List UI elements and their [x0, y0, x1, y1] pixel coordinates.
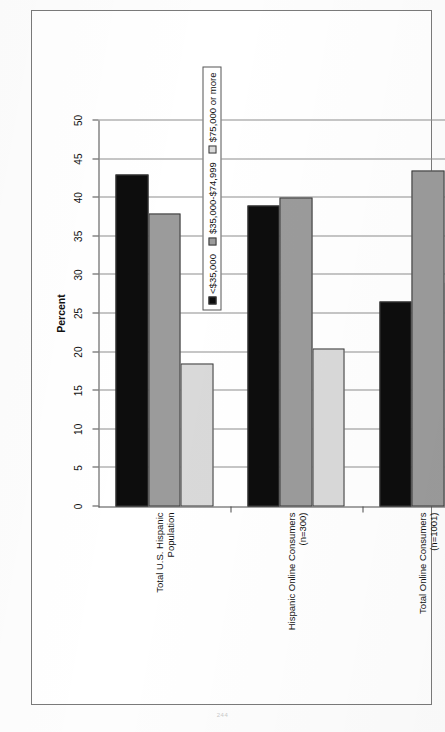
bar [115, 174, 147, 506]
legend: <$35,000$35,000-$74,999$75,000 or more [202, 66, 221, 310]
x-tick [92, 389, 98, 390]
x-tick [92, 158, 98, 159]
x-tick [92, 119, 98, 120]
bar-chart: Total U.S. HispanicPopulationHispanic On… [52, 72, 445, 627]
scanned-page: Figure 42 - Online Income Demographics f… [0, 0, 445, 732]
category-label-line: (n=1001) [427, 512, 438, 662]
x-tick [92, 428, 98, 429]
bar [148, 213, 180, 506]
legend-swatch [208, 296, 216, 304]
bar [312, 348, 344, 506]
x-tick [92, 196, 98, 197]
plot-area: Total U.S. HispanicPopulationHispanic On… [98, 120, 445, 507]
x-tick-label: 10 [72, 423, 83, 434]
x-tick [92, 351, 98, 352]
bar [180, 363, 212, 506]
bar [279, 197, 311, 506]
x-tick [92, 273, 98, 274]
category-label-line: Total Online Consumers [416, 512, 427, 662]
legend-item: <$35,000 [206, 254, 217, 305]
category-label-line: Hispanic Online Consumers [285, 512, 296, 662]
category-label-line: Population [164, 512, 175, 662]
legend-label: <$35,000 [206, 254, 217, 294]
x-tick [92, 466, 98, 467]
legend-label: $35,000-$74,999 [206, 162, 217, 234]
x-tick-label: 40 [72, 192, 83, 203]
x-tick-label: 35 [72, 230, 83, 241]
x-tick-label: 20 [72, 346, 83, 357]
x-tick-label: 15 [72, 385, 83, 396]
x-tick-label: 30 [72, 269, 83, 280]
x-tick-label: 25 [72, 307, 83, 318]
x-tick-label: 45 [72, 153, 83, 164]
x-tick-label: 5 [72, 465, 83, 471]
category-label-line: (n=300) [296, 512, 307, 662]
bar [247, 205, 279, 506]
x-tick-label: 0 [72, 503, 83, 509]
category-axis-tick [362, 506, 363, 512]
category-label-line: Total U.S. Hispanic [153, 512, 164, 662]
bars-layer: Total U.S. HispanicPopulationHispanic On… [98, 120, 445, 506]
rotated-artwork-layer: Figure 42 - Online Income Demographics f… [0, 0, 445, 732]
x-tick [92, 505, 98, 506]
landscape-canvas: Figure 42 - Online Income Demographics f… [0, 0, 445, 732]
page-number: 244 [0, 712, 445, 718]
legend-swatch [208, 145, 216, 153]
bar [379, 301, 411, 506]
category-label: Total Online Consumers(n=1001) [362, 512, 445, 662]
legend-item: $35,000-$74,999 [206, 162, 217, 245]
x-axis-title: Percent [54, 294, 66, 333]
category-label: Total U.S. HispanicPopulation [98, 512, 230, 662]
legend-label: $75,000 or more [206, 72, 217, 142]
x-tick-label: 50 [72, 114, 83, 125]
legend-item: $75,000 or more [206, 72, 217, 153]
category-label: Hispanic Online Consumers(n=300) [230, 512, 362, 662]
category-axis-tick [230, 506, 231, 512]
bar [411, 170, 443, 506]
legend-swatch [208, 237, 216, 245]
x-tick [92, 312, 98, 313]
x-tick [92, 235, 98, 236]
